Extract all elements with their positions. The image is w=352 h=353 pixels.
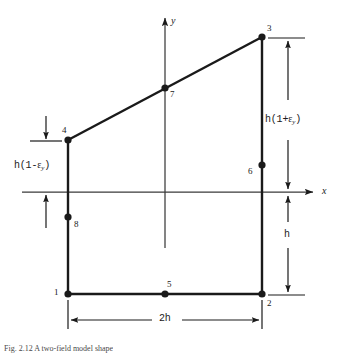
width-dimension-label: 2h [159,314,171,324]
figure-caption: Fig. 2.12 A two-field model shape [4,344,113,353]
lower-right-dimension-group [268,196,305,295]
node-marker-6 [258,161,265,168]
node-label-8: 8 [74,220,79,229]
left-dim-main: h(1- [14,160,37,171]
node-label-5: 5 [167,280,172,289]
node-marker-4 [64,136,71,143]
node-label-1: 1 [54,288,59,297]
node-marker-8 [64,213,71,220]
node-label-4: 4 [62,126,67,135]
node-label-3: 3 [267,24,272,33]
left-dimension-group [30,116,62,228]
y-axis-label: y [171,16,175,26]
right-dim-close: ) [295,114,301,125]
left-dim-close: ) [44,160,50,171]
lower-height-dimension-label: h [284,230,290,240]
left-height-dimension-label: h(1-εy) [14,160,50,172]
right-dim-main: h(1+ [265,114,288,125]
node-marker-2 [258,290,265,297]
x-axis-label: x [322,186,326,196]
node-label-7: 7 [170,90,175,99]
node-marker-7 [161,84,168,91]
node-marker-3 [258,33,265,40]
node-label-6: 6 [248,167,253,176]
node-marker-1 [64,290,71,297]
right-height-dimension-label: h(1+εy) [265,114,301,126]
node-label-2: 2 [267,299,272,308]
node-marker-5 [161,290,168,297]
